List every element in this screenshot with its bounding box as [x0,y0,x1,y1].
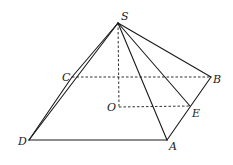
solid-edge-SC [72,23,118,77]
label-O: O [107,101,116,114]
solid-edge-SA [118,23,167,140]
dashed-edge-OE [119,106,190,107]
label-A: A [168,140,177,153]
solid-edge-SD [29,23,118,140]
label-B: B [212,73,221,86]
solid-edge-SB [118,23,211,77]
label-C: C [62,71,71,84]
label-S: S [121,10,129,23]
solid-edge-CD [29,77,72,140]
label-D: D [17,135,27,148]
dashed-edge-SO [118,23,119,107]
solid-edge-SE [118,23,190,106]
label-E: E [191,107,200,120]
pyramid-diagram: S C B O E D A [0,0,233,165]
